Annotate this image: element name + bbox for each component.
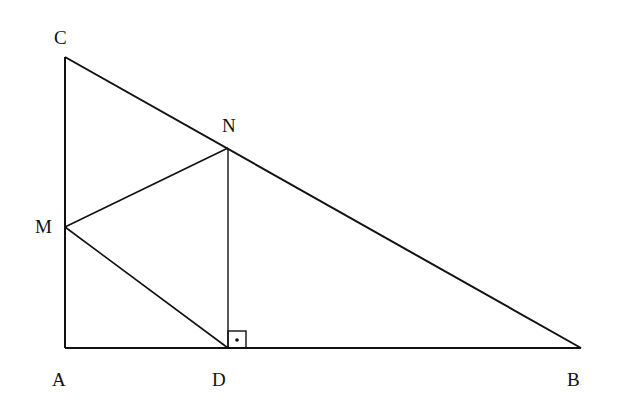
segment-MN [65, 148, 228, 227]
label-D: D [212, 369, 226, 390]
label-B: B [567, 369, 580, 390]
label-C: C [54, 27, 67, 48]
geometry-diagram: C N M A D B [0, 0, 617, 409]
segment-MD [65, 227, 228, 348]
right-angle-dot [235, 338, 239, 342]
label-M: M [35, 216, 52, 237]
segment-CB [65, 57, 581, 348]
label-A: A [52, 369, 66, 390]
label-N: N [222, 115, 236, 136]
